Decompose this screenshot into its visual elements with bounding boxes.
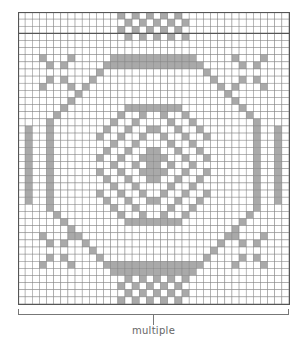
bracket-tick (153, 315, 154, 325)
knitting-chart-grid (18, 12, 290, 305)
repeat-label: multiple (0, 325, 307, 336)
